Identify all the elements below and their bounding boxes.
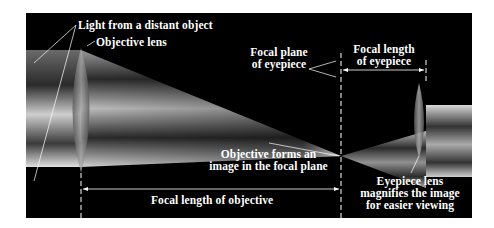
label-objective-forms-image: Objective forms an image in the focal pl… bbox=[196, 148, 341, 172]
telescope-diagram: Light from a distant object Objective le… bbox=[26, 13, 472, 218]
label-focal-length-objective: Focal length of objective bbox=[151, 194, 273, 206]
label-light-from-distant-object: Light from a distant object bbox=[78, 19, 213, 31]
label-focal-plane: Focal plane of eyepiece bbox=[246, 46, 312, 70]
label-focal-length-eyepiece: Focal length of eyepiece bbox=[346, 43, 422, 67]
label-eyepiece-lens: Eyepiece lens magnifies the image for ea… bbox=[354, 175, 466, 211]
magnified-light-beam bbox=[426, 105, 472, 177]
label-objective-lens: Objective lens bbox=[96, 36, 167, 48]
